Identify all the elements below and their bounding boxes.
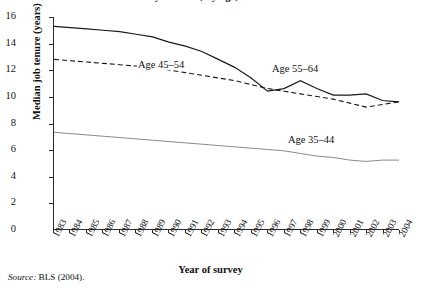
series-line-age-45-54 xyxy=(54,59,399,107)
source-label: Source: xyxy=(8,272,36,282)
series-label-age-55-64: Age 55–64 xyxy=(271,63,319,74)
y-tick-label: 12 xyxy=(0,63,16,74)
source-value: BLS (2004). xyxy=(36,272,84,282)
plot-area xyxy=(53,17,399,230)
x-tick-label: 2004 xyxy=(397,218,415,239)
series-lines xyxy=(54,17,399,229)
chart-title: salary workers, by age, 1983–2004 xyxy=(0,0,421,2)
series-label-age-45-54: Age 45–54 xyxy=(137,59,185,70)
y-tick-label: 2 xyxy=(0,196,16,207)
series-label-age-35-44: Age 35–44 xyxy=(287,134,335,145)
y-tick-label: 14 xyxy=(0,37,16,48)
y-tick-label: 6 xyxy=(0,143,16,154)
y-axis-title: Median job tenure (years) xyxy=(31,0,42,142)
y-tick-label: 8 xyxy=(0,117,16,128)
y-tick-label: 16 xyxy=(0,10,16,21)
y-tick-label: 10 xyxy=(0,90,16,101)
y-tick-label: 4 xyxy=(0,170,16,181)
y-tick-label: 0 xyxy=(0,223,16,234)
chart-figure: salary workers, by age, 1983–2004 Median… xyxy=(0,0,421,295)
source-note: Source: BLS (2004). xyxy=(8,272,84,282)
series-line-age-35-44 xyxy=(54,132,399,161)
